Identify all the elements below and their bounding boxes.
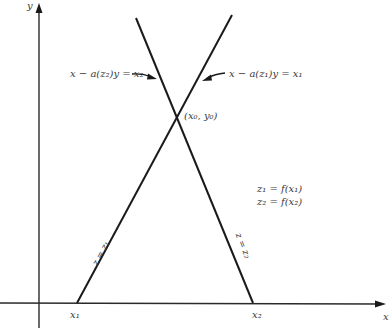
arrowhead-icon bbox=[147, 74, 157, 80]
definitions-block: z₁ = f(x₁) z₂ = f(x₂) bbox=[257, 184, 302, 210]
arrowhead-icon bbox=[202, 75, 212, 82]
equation-line-z1: x − a(z₁)y = x₁ bbox=[229, 69, 302, 79]
x-axis-label: x bbox=[383, 312, 389, 322]
x-axis bbox=[0, 301, 386, 308]
definition-z1: z₁ = f(x₁) bbox=[257, 184, 302, 194]
definition-z2: z₂ = f(x₂) bbox=[257, 197, 302, 207]
x-axis-arrow-icon bbox=[375, 301, 386, 308]
y-axis bbox=[36, 3, 43, 328]
equation-line-z2: x − a(z₂)y = x₂ bbox=[70, 69, 143, 79]
intersection-label: (x₀, y₀) bbox=[184, 111, 217, 121]
arrow-equation-z1 bbox=[202, 73, 225, 81]
x1-intercept-label: x₁ bbox=[70, 310, 80, 320]
x2-intercept-label: x₂ bbox=[252, 310, 262, 320]
y-axis-arrow-icon bbox=[36, 3, 43, 13]
y-axis-label: y bbox=[27, 1, 33, 11]
